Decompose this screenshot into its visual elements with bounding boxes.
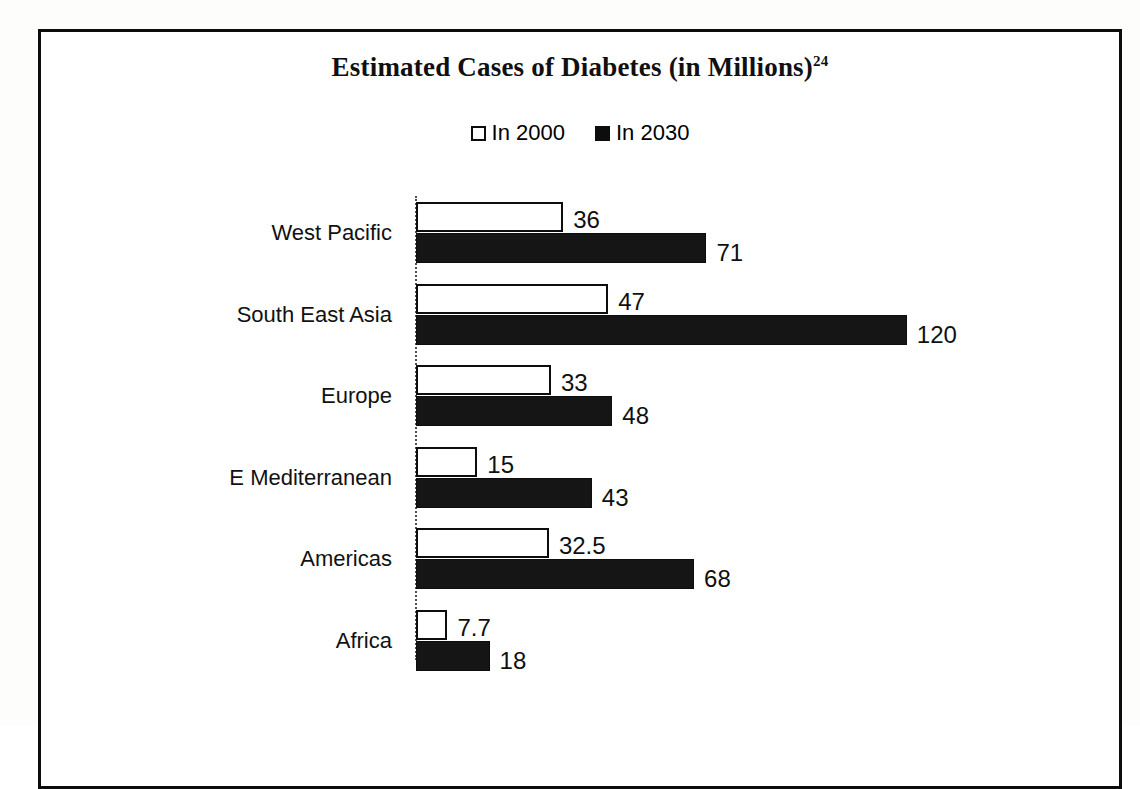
bar-in-2030 — [416, 478, 592, 508]
category-label: West Pacific — [62, 222, 392, 244]
category-label: E Mediterranean — [62, 467, 392, 489]
bar-value-label: 68 — [704, 567, 731, 591]
bar-value-label: 15 — [487, 453, 514, 477]
bar-in-2000 — [416, 365, 551, 395]
bar-value-label: 7.7 — [457, 616, 490, 640]
category-label: Americas — [62, 548, 392, 570]
bar-in-2030 — [416, 233, 706, 263]
bar-in-2000 — [416, 610, 447, 640]
bar-in-2030 — [416, 396, 612, 426]
bar-value-label: 32.5 — [559, 534, 606, 558]
bar-value-label: 47 — [618, 290, 645, 314]
bar-value-label: 33 — [561, 371, 588, 395]
bar-in-2030 — [416, 315, 907, 345]
category-label: South East Asia — [62, 304, 392, 326]
bar-in-2000 — [416, 528, 549, 558]
bar-in-2030 — [416, 559, 694, 589]
bar-value-label: 36 — [573, 208, 600, 232]
bar-value-label: 120 — [917, 323, 957, 347]
bar-in-2000 — [416, 202, 563, 232]
bar-value-label: 43 — [602, 486, 629, 510]
bar-in-2000 — [416, 447, 477, 477]
category-axis-line — [415, 196, 417, 660]
bar-value-label: 18 — [500, 649, 527, 673]
category-label: Africa — [62, 630, 392, 652]
bar-value-label: 71 — [716, 241, 743, 265]
bar-value-label: 48 — [622, 404, 649, 428]
category-label: Europe — [62, 385, 392, 407]
bar-in-2000 — [416, 284, 608, 314]
bar-in-2030 — [416, 641, 490, 671]
